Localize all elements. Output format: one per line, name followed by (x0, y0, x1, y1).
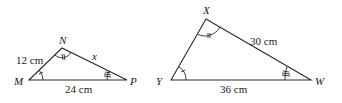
vertex-label-y: Y (156, 75, 164, 87)
triangle-xyw: X Y W 30 cm 36 cm (156, 4, 325, 95)
side-label-mp: 24 cm (65, 83, 93, 95)
vertex-label-n: N (58, 34, 67, 46)
angle-m-arc (39, 70, 43, 80)
angle-y-arc (179, 67, 186, 80)
angle-w-tick-2 (282, 75, 290, 76)
vertex-label-x: X (202, 4, 211, 16)
angle-n-tick-2 (64, 54, 65, 60)
angle-p-tick-2 (104, 76, 111, 77)
triangle-mnp: N M P 12 cm x 24 cm (13, 34, 137, 95)
angle-w-tick-3 (283, 71, 289, 72)
angle-p-tick-3 (105, 72, 110, 73)
vertex-label-w: W (315, 75, 325, 87)
vertex-label-m: M (13, 75, 24, 87)
similar-triangles-diagram: N M P 12 cm x 24 cm X Y W 30 cm 36 cm (0, 0, 342, 103)
angle-p-tick-1 (104, 74, 111, 75)
angle-w-tick-1 (282, 73, 290, 74)
angle-n-tick-1 (62, 54, 63, 60)
side-label-yw: 36 cm (220, 83, 248, 95)
side-label-mn: 12 cm (16, 54, 44, 66)
side-label-xw: 30 cm (250, 35, 278, 47)
vertex-label-p: P (129, 75, 137, 87)
triangle-xyw-outline (171, 19, 311, 80)
side-label-np: x (91, 50, 97, 62)
triangle-mnp-outline (29, 48, 127, 80)
